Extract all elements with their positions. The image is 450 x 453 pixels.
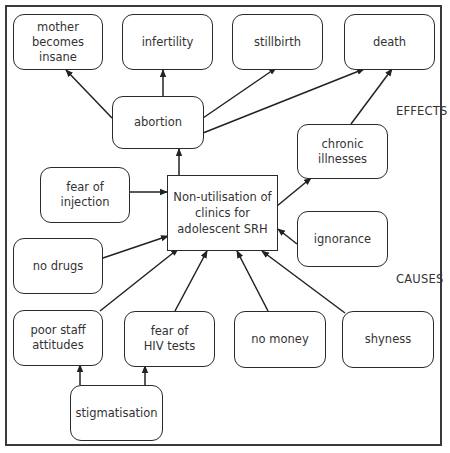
edge-fear-hiv-to-center bbox=[175, 251, 207, 311]
node-fear-of-injection: fear of injection bbox=[40, 167, 130, 223]
edge-chronic-to-death bbox=[351, 69, 392, 124]
node-chronic-illnesses: chronic illnesses bbox=[297, 124, 388, 179]
node-mother-becomes-insane: mother becomes insane bbox=[13, 14, 103, 70]
node-infertility: infertility bbox=[122, 14, 213, 70]
node-center-non-utilisation: Non-utilisation of clinics for adolescen… bbox=[167, 175, 278, 251]
node-stillbirth: stillbirth bbox=[232, 14, 323, 70]
edge-ignorance-to-center bbox=[278, 229, 297, 244]
node-shyness: shyness bbox=[342, 311, 434, 368]
node-no-money: no money bbox=[234, 311, 326, 368]
edge-no-drugs-to-center bbox=[100, 236, 168, 259]
edge-abortion-to-stillbirth bbox=[203, 68, 276, 118]
node-abortion: abortion bbox=[112, 96, 204, 149]
edge-center-to-chronic bbox=[277, 178, 311, 206]
causes-label: CAUSES bbox=[396, 272, 443, 286]
edge-abortion-to-mother bbox=[66, 70, 112, 118]
node-death: death bbox=[344, 14, 435, 70]
edge-poor-staff-to-center bbox=[100, 249, 178, 311]
node-fear-of-hiv-tests: fear of HIV tests bbox=[124, 311, 215, 367]
node-poor-staff-attitudes: poor staff attitudes bbox=[13, 310, 103, 366]
node-no-drugs: no drugs bbox=[13, 238, 103, 294]
node-ignorance: ignorance bbox=[297, 211, 388, 267]
node-stigmatisation: stigmatisation bbox=[70, 385, 163, 441]
effects-label: EFFECTS bbox=[396, 104, 448, 118]
edge-no-money-to-center bbox=[237, 251, 268, 311]
